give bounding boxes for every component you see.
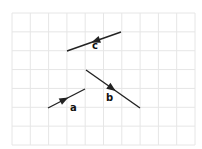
- vector-diagram: abc: [0, 0, 202, 149]
- vector-c: c: [67, 32, 121, 51]
- vector-label: a: [70, 102, 77, 113]
- vector-label: b: [106, 92, 113, 103]
- vectors: abc: [48, 32, 140, 113]
- arrowhead-icon: [106, 83, 115, 91]
- grid: [12, 13, 195, 145]
- vector-label: c: [92, 40, 98, 51]
- vector-b: b: [86, 70, 140, 108]
